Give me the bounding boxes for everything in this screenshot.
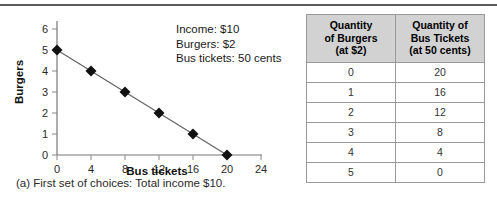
header-line-3: (at $2)	[309, 44, 393, 57]
y-tick-label: 1	[30, 128, 48, 140]
data-table-wrapper: Quantity of Burgers (at $2) Quantity of …	[306, 14, 485, 183]
cell-burgers: 5	[307, 162, 396, 182]
table-body: 0 20 1 16 2 12 3 8 4 4 5 0	[307, 62, 485, 182]
table-row: 0 20	[307, 62, 485, 82]
table-row: 4 4	[307, 142, 485, 162]
table-row: 3 8	[307, 122, 485, 142]
table-row: 1 16	[307, 82, 485, 102]
table-row: 5 0	[307, 162, 485, 182]
cell-bus-tickets: 20	[396, 62, 485, 82]
y-axis-title: Burgers	[13, 42, 25, 122]
figure-caption: (a) First set of choices: Total income $…	[16, 177, 225, 189]
budget-choices-table: Quantity of Burgers (at $2) Quantity of …	[306, 14, 485, 183]
header-line-1: Quantity	[309, 19, 393, 32]
y-tick-label: 0	[30, 149, 48, 161]
cell-bus-tickets: 12	[396, 102, 485, 122]
annotation-line-bus-tickets: Bus tickets: 50 cents	[176, 51, 281, 66]
table-row: 2 12	[307, 102, 485, 122]
cell-burgers: 4	[307, 142, 396, 162]
cell-burgers: 0	[307, 62, 396, 82]
annotation-line-burgers: Burgers: $2	[176, 37, 281, 52]
cell-bus-tickets: 4	[396, 142, 485, 162]
header-line-3: (at 50 cents)	[398, 44, 482, 57]
column-header-quantity-of-bus-tickets: Quantity of Bus Tickets (at 50 cents)	[396, 15, 485, 63]
figure-panel: 6 5 4 3 2 1 0 0 4 8 12 16 20 24 Burgers …	[0, 8, 292, 198]
y-tick-label: 5	[30, 44, 48, 56]
cell-burgers: 2	[307, 102, 396, 122]
cell-bus-tickets: 8	[396, 122, 485, 142]
cell-burgers: 1	[307, 82, 396, 102]
cell-bus-tickets: 0	[396, 162, 485, 182]
cell-burgers: 3	[307, 122, 396, 142]
header-line-1: Quantity of	[398, 19, 482, 32]
y-tick-label: 2	[30, 107, 48, 119]
header-line-2: of Burgers	[309, 32, 393, 45]
y-tick-label: 3	[30, 86, 48, 98]
y-tick-label: 6	[30, 23, 48, 35]
chart-annotation: Income: $10 Burgers: $2 Bus tickets: 50 …	[176, 22, 281, 66]
top-divider	[0, 4, 497, 6]
table-header-row: Quantity of Burgers (at $2) Quantity of …	[307, 15, 485, 63]
chart-plot-area: 6 5 4 3 2 1 0 0 4 8 12 16 20 24 Burgers …	[0, 8, 292, 168]
annotation-line-income: Income: $10	[176, 22, 281, 37]
cell-bus-tickets: 16	[396, 82, 485, 102]
x-axis-title: Bus tickets	[57, 165, 257, 177]
table-header: Quantity of Burgers (at $2) Quantity of …	[307, 15, 485, 63]
header-line-2: Bus Tickets	[398, 32, 482, 45]
y-tick-label: 4	[30, 65, 48, 77]
column-header-quantity-of-burgers: Quantity of Burgers (at $2)	[307, 15, 396, 63]
